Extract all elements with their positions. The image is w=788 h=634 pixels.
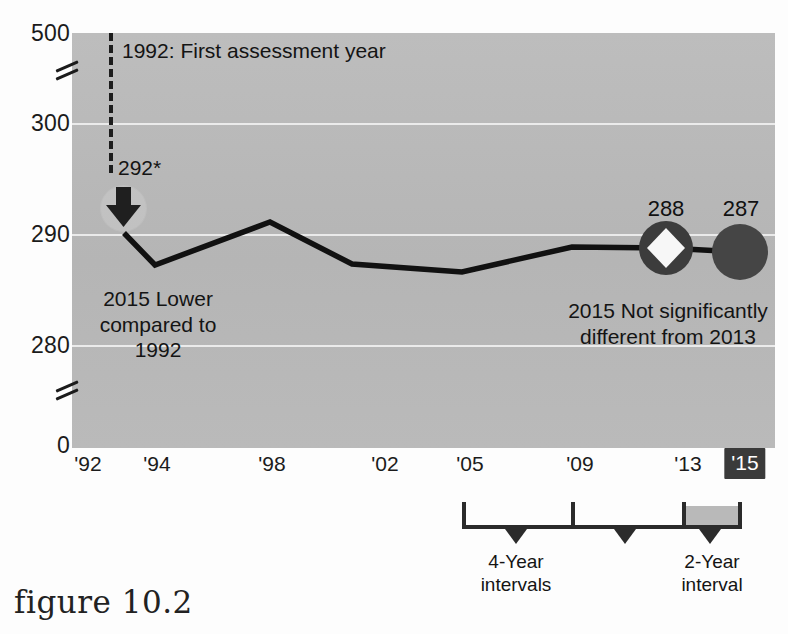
interval-four-line2: intervals — [446, 573, 586, 596]
bracket-pointer-icons — [0, 0, 788, 634]
interval-label-four-year: 4-Year intervals — [446, 550, 586, 596]
figure-caption: figure 10.2 — [14, 584, 193, 620]
interval-two-line2: interval — [652, 573, 772, 596]
interval-four-line1: 4-Year — [446, 550, 586, 573]
figure-container: 500 300 290 280 0 '92 '94 '98 '02 '05 '0… — [0, 0, 788, 634]
interval-two-line1: 2-Year — [652, 550, 772, 573]
interval-label-two-year: 2-Year interval — [652, 550, 772, 596]
